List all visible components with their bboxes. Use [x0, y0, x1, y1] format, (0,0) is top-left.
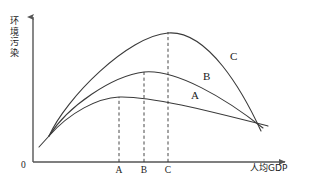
curve-label-a: A	[191, 89, 199, 101]
x-tick-label-b: B	[137, 165, 151, 175]
x-axis-label: 人均GDP	[250, 163, 287, 174]
curve-common-tail	[39, 136, 49, 147]
x-tick-label-a: A	[112, 165, 126, 175]
curve-c	[49, 33, 261, 136]
curve-a	[49, 97, 268, 136]
curve-label-b: B	[203, 70, 210, 82]
x-tick-label-c: C	[161, 165, 175, 175]
curve-b	[49, 72, 263, 136]
environmental-kuznets-curve-figure: 环境污染 人均GDP 0 A B C A B C	[0, 0, 312, 195]
origin-label: 0	[21, 160, 26, 170]
curve-label-c: C	[230, 50, 237, 62]
y-axis-label: 环境污染	[8, 16, 20, 58]
